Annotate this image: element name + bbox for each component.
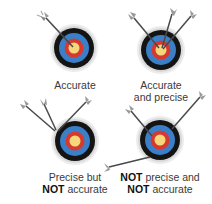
label-line: Accurate	[134, 79, 188, 91]
label-text: precise and	[142, 171, 199, 183]
emphasis-not: NOT	[120, 171, 142, 183]
target-not-precise-not-accurate	[104, 91, 206, 172]
label-accurate-and-precise: Accurate and precise	[134, 79, 188, 103]
emphasis-not: NOT	[127, 183, 149, 195]
label-text: accurate	[149, 183, 192, 195]
target-accurate	[37, 11, 98, 72]
label-line: and precise	[134, 91, 188, 103]
emphasis-not: NOT	[42, 183, 64, 195]
label-accurate: Accurate	[54, 79, 95, 91]
label-line: NOT precise and	[120, 171, 199, 183]
target-accurate-and-precise	[128, 8, 197, 74]
label-precise-not-accurate: Precise but NOT accurate	[42, 171, 107, 195]
label-line: Accurate	[54, 79, 95, 91]
label-line: NOT accurate	[42, 183, 107, 195]
label-not-precise-not-accurate: NOT precise and NOT accurate	[120, 171, 199, 195]
label-line: Precise but	[42, 171, 107, 183]
label-text: accurate	[64, 183, 107, 195]
label-line: NOT accurate	[120, 183, 199, 195]
target-precise-not-accurate	[20, 96, 99, 165]
